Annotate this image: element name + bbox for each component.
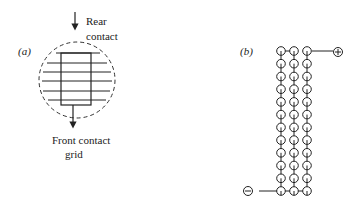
panel-a: (a) Rear contact Front contact grid [18,12,118,160]
diagram-canvas: (a) Rear contact Front contact grid (b) [0,0,362,217]
rear-label-line2: contact [86,30,118,42]
panel-b-label: (b) [240,45,253,58]
front-label-line2: grid [65,148,83,160]
busbar-frame [61,53,91,105]
panel-a-label: (a) [18,45,31,58]
cell-array [277,47,312,196]
front-grid-lines [42,53,112,100]
panel-b: (b) [240,45,343,196]
rear-label-line1: Rear [86,15,107,27]
front-label-line1: Front contact [52,134,110,146]
